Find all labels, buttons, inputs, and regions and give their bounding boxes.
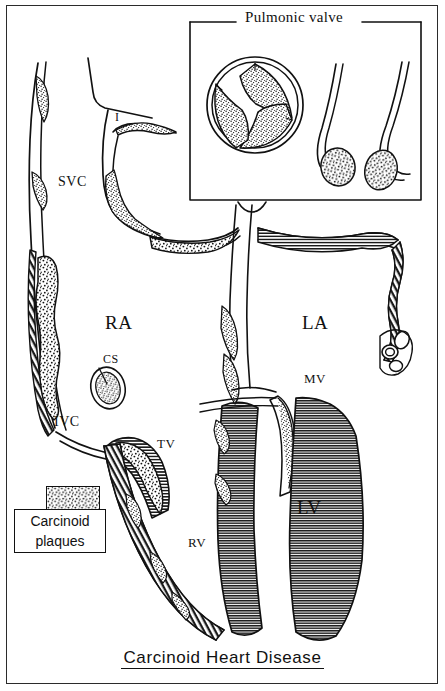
legend-carcinoid-plaques: Carcinoid plaques <box>14 509 106 553</box>
carcinoid-plaque-swatch <box>46 486 100 510</box>
label-mitral-valve: MV <box>304 371 326 387</box>
label-innominate-vein: I <box>115 110 120 125</box>
aortic-root-nodules <box>380 329 412 375</box>
right-atrium-wall <box>150 228 240 253</box>
legend-line-2: plaques <box>15 531 105 551</box>
figure-caption: Carcinoid Heart Disease <box>0 648 445 668</box>
figure-caption-text: Carcinoid Heart Disease <box>121 648 323 669</box>
inset-title: Pulmonic valve <box>240 9 348 26</box>
inferior-vena-cava-group <box>28 250 154 462</box>
label-right-atrium: RA <box>105 312 132 334</box>
interventricular-septum <box>214 402 262 635</box>
coronary-sinus <box>86 364 129 413</box>
carcinoid-heart-disease-figure: Pulmonic valve I SVC IVC RA CS TV RV LA … <box>0 0 445 691</box>
label-ivc: IVC <box>54 414 80 430</box>
legend-line-1: Carcinoid <box>15 511 105 531</box>
label-svc: SVC <box>58 174 87 190</box>
label-left-ventricle: LV <box>297 497 322 519</box>
stipple-fill <box>47 487 99 509</box>
label-coronary-sinus: CS <box>103 352 119 367</box>
left-atrium-wall <box>258 228 403 362</box>
label-right-ventricle: RV <box>188 535 206 551</box>
pulmonic-valve-inset <box>190 22 421 200</box>
label-left-atrium: LA <box>302 312 328 334</box>
label-tricuspid-valve: TV <box>157 436 175 452</box>
heart-anatomy-drawing <box>0 0 445 691</box>
